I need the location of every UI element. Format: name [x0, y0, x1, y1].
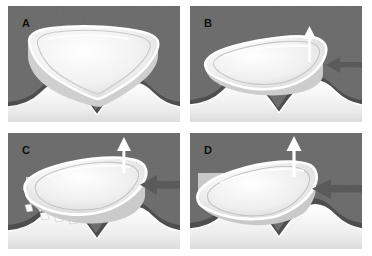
panel-b: [190, 6, 362, 122]
panel-c-label: C: [22, 145, 30, 156]
panel-b-drawing: [190, 6, 362, 122]
panel-a-label: A: [22, 18, 30, 29]
panel-b-label: B: [204, 18, 212, 29]
figure-four-panel-illustration: A: [0, 0, 372, 256]
panel-d-drawing: [190, 133, 362, 249]
panel-a-drawing: [8, 6, 180, 122]
panel-a: [8, 6, 180, 122]
panel-d-label: D: [204, 145, 212, 156]
panel-d: [190, 133, 362, 249]
panel-c-drawing: [8, 133, 180, 249]
panel-c: [8, 133, 180, 249]
